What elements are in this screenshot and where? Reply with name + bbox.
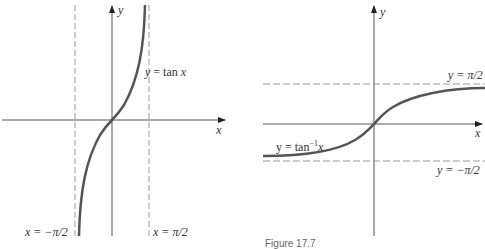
y-axis-label-left: y — [118, 4, 123, 16]
y-axis-label-right: y — [380, 6, 385, 18]
x-axis-label-left: x — [216, 124, 221, 136]
tan-graph — [2, 5, 225, 236]
asymptote-label-left: x = −π/2 — [25, 226, 68, 238]
asymptote-label-bottom: y = −π/2 — [437, 164, 480, 176]
asymptote-label-right: x = π/2 — [153, 226, 188, 238]
figure-caption: Figure 17.7 — [265, 238, 316, 249]
tan-curve-label: y = tan x — [145, 66, 186, 78]
asymptote-label-top: y = π/2 — [448, 69, 483, 81]
arctan-graph — [263, 6, 485, 236]
arctan-curve-label: y = tan−1x — [276, 140, 323, 153]
x-axis-label-right: x — [475, 127, 480, 139]
